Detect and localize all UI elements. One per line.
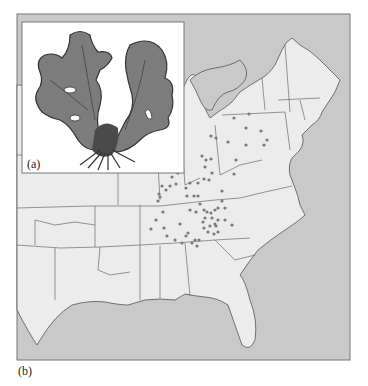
- occurrence-dot: [259, 129, 262, 132]
- occurrence-dot: [188, 208, 191, 211]
- occurrence-dot: [190, 241, 193, 244]
- occurrence-dot: [202, 226, 205, 229]
- occurrence-dot: [194, 210, 197, 213]
- occurrence-dot: [200, 154, 203, 157]
- occurrence-dot: [203, 165, 206, 168]
- occurrence-dot: [244, 143, 247, 146]
- occurrence-dot: [162, 226, 165, 229]
- occurrence-dot: [197, 238, 200, 241]
- occurrence-dot: [208, 224, 211, 227]
- occurrence-dot: [193, 238, 196, 241]
- occurrence-dot: [186, 231, 189, 234]
- occurrence-dot: [154, 218, 157, 221]
- occurrence-dot: [209, 211, 212, 214]
- occurrence-dot: [174, 182, 177, 185]
- occurrence-dot: [216, 206, 219, 209]
- occurrence-dot: [202, 208, 205, 211]
- occurrence-dot: [232, 172, 235, 175]
- occurrence-dot: [160, 184, 163, 187]
- occurrence-dot: [214, 136, 217, 139]
- occurrence-dot: [188, 181, 191, 184]
- occurrence-dot: [173, 238, 176, 241]
- map-svg: [0, 0, 368, 386]
- occurrence-dot: [230, 223, 233, 226]
- occurrence-dot: [207, 178, 210, 181]
- occurrence-dot: [165, 234, 168, 237]
- occurrence-dot: [178, 222, 181, 225]
- occurrence-dot: [214, 224, 217, 227]
- occurrence-dot: [170, 175, 173, 178]
- occurrence-dot: [180, 241, 183, 244]
- occurrence-dot: [204, 158, 207, 161]
- occurrence-dot: [220, 199, 223, 202]
- occurrence-dot: [203, 216, 206, 219]
- occurrence-dot: [168, 184, 171, 187]
- occurrence-dot: [234, 158, 237, 161]
- occurrence-dot: [209, 157, 212, 160]
- occurrence-dot: [232, 116, 235, 119]
- occurrence-dot: [247, 112, 250, 115]
- occurrence-dot: [244, 126, 247, 129]
- occurrence-dot: [196, 194, 199, 197]
- occurrence-dot: [202, 177, 205, 180]
- occurrence-dot: [210, 216, 213, 219]
- occurrence-dot: [206, 230, 209, 233]
- occurrence-dot: [220, 189, 223, 192]
- panel-label-b: (b): [18, 364, 32, 379]
- occurrence-dot: [184, 186, 187, 189]
- occurrence-dot: [195, 244, 198, 247]
- occurrence-dot: [265, 138, 268, 141]
- occurrence-dot: [226, 140, 229, 143]
- occurrence-dot: [216, 230, 219, 233]
- occurrence-dot: [185, 194, 188, 197]
- occurrence-dot: [213, 208, 216, 211]
- occurrence-dot: [196, 181, 199, 184]
- occurrence-dot: [149, 227, 152, 230]
- occurrence-dot: [223, 206, 226, 209]
- occurrence-dot: [184, 234, 187, 237]
- occurrence-dot: [216, 218, 219, 221]
- occurrence-dot: [210, 171, 213, 174]
- occurrence-dot: [158, 195, 161, 198]
- occurrence-dot: [212, 232, 215, 235]
- occurrence-dot: [164, 188, 167, 191]
- occurrence-dot: [161, 210, 164, 213]
- occurrence-dot: [205, 210, 208, 213]
- occurrence-dot: [262, 143, 265, 146]
- occurrence-dot: [198, 202, 201, 205]
- occurrence-dot: [209, 134, 212, 137]
- occurrence-dot: [157, 192, 160, 195]
- occurrence-dot: [192, 194, 195, 197]
- occurrence-dot: [201, 220, 204, 223]
- occurrence-dot: [223, 218, 226, 221]
- occurrence-dot: [156, 199, 159, 202]
- figure: (a) (b): [0, 0, 368, 386]
- panel-label-a: (a): [27, 157, 40, 172]
